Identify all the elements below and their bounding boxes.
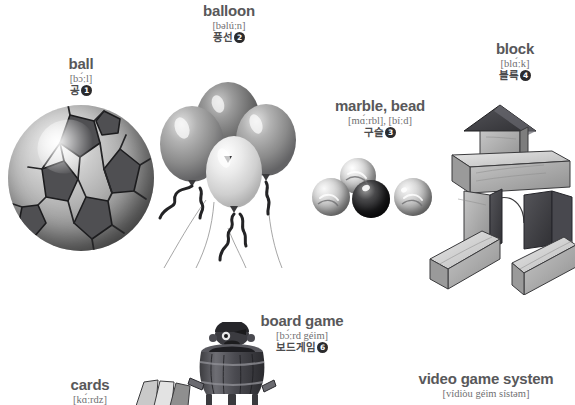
dictionary-page: ball [bɔ́ːl] 공 1 [0, 0, 575, 405]
illustration-marbles [312, 158, 434, 220]
entry-label-marble-bead: marble, bead [mɑ́ːrbl], [bíːd] 구슬 3 [320, 98, 440, 138]
korean-board-game: 보드게임 [276, 342, 316, 353]
headword-video-game-system: video game system [398, 371, 574, 387]
headword-ball: ball [42, 56, 120, 72]
illustration-wooden-blocks [424, 103, 575, 295]
phonetic-cards: [kɑ́ːrdz] [52, 394, 128, 405]
badge-balloon: 2 [234, 32, 245, 43]
block-right-pillar [524, 191, 552, 249]
entry-label-video-game-system: video game system [vídiòu géim sístəm] [398, 371, 574, 399]
marble-swirls [312, 158, 434, 220]
balloon-bunch-svg [150, 78, 302, 268]
pirate-barrel-svg [182, 322, 282, 405]
korean-row-ball: 공 1 [42, 85, 120, 96]
badge-marble-bead: 3 [385, 127, 396, 138]
entry-label-ball: ball [bɔ́ːl] 공 1 [42, 56, 120, 96]
korean-row-block: 블록 4 [472, 70, 558, 81]
headword-cards: cards [52, 377, 128, 393]
phonetic-balloon: [bəlúːn] [176, 20, 282, 31]
phonetic-ball: [bɔ́ːl] [42, 73, 120, 84]
phonetic-block: [blɑ́ːk] [472, 58, 558, 69]
badge-board-game: 6 [317, 342, 328, 353]
illustration-soccer-ball [8, 105, 154, 251]
korean-balloon: 풍선 [213, 32, 233, 43]
korean-marble-bead: 구슬 [364, 127, 384, 138]
entry-label-balloon: balloon [bəlúːn] 풍선 2 [176, 3, 282, 43]
soccer-ball-sphere [8, 105, 154, 251]
korean-ball: 공 [70, 85, 80, 96]
korean-block: 블록 [499, 70, 519, 81]
wooden-blocks-svg [424, 103, 575, 295]
entry-label-block: block [blɑ́ːk] 블록 4 [472, 41, 558, 81]
phonetic-video-game-system: [vídiòu géim sístəm] [398, 388, 574, 399]
barrel-body [200, 352, 265, 394]
badge-block: 4 [520, 70, 531, 81]
balloon-front [206, 136, 262, 208]
headword-marble-bead: marble, bead [320, 98, 440, 114]
phonetic-marble-bead: [mɑ́ːrbl], [bíːd] [320, 115, 440, 126]
illustration-balloon-bunch [150, 78, 302, 268]
entry-label-cards: cards [kɑ́ːrdz] [52, 377, 128, 405]
badge-ball: 1 [81, 85, 92, 96]
korean-row-balloon: 풍선 2 [176, 32, 282, 43]
headword-balloon: balloon [176, 3, 282, 19]
headword-block: block [472, 41, 558, 57]
korean-row-marble-bead: 구슬 3 [320, 127, 440, 138]
soccer-ball-panels [8, 105, 154, 251]
illustration-pirate-barrel-game [182, 322, 282, 405]
